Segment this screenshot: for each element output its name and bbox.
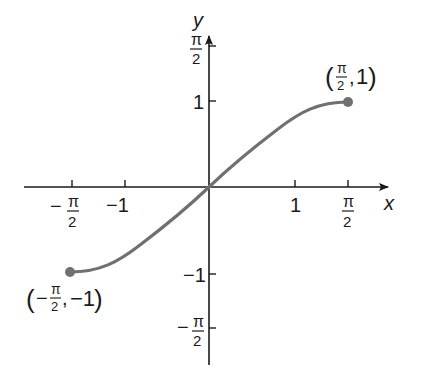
annot-left-neg-one: −1 — [70, 286, 95, 311]
annot-left-pi: π — [51, 281, 61, 297]
x-axis-label: x — [383, 192, 395, 214]
x-label-pi-half-pi: π — [343, 193, 354, 210]
annot-right-comma: , — [349, 66, 355, 88]
y-label-neg-pi-half-minus: − — [177, 316, 189, 338]
endpoint-left — [65, 267, 75, 277]
annot-left-lparen: ( — [26, 284, 35, 314]
y-tick-labels: π 2 1 −1 − π 2 — [177, 31, 206, 349]
x-tick-labels: − π 2 −1 1 π 2 — [50, 193, 354, 230]
y-label-pi-half-two: 2 — [192, 50, 200, 67]
annot-right-rparen: ) — [368, 62, 377, 92]
x-label-neg-1: −1 — [106, 194, 129, 216]
x-label-neg-pi-half-two: 2 — [68, 213, 76, 230]
annot-right-pi: π — [337, 60, 347, 76]
annotation-right-endpoint: ( π 2 , 1 ) — [325, 60, 377, 93]
annotation-left-endpoint: ( − π 2 , −1 ) — [26, 281, 103, 314]
endpoint-right — [343, 97, 353, 107]
x-label-neg-pi-half-minus: − — [50, 195, 62, 217]
y-label-neg-pi-half-pi: π — [193, 313, 204, 330]
annot-right-lparen: ( — [325, 62, 334, 92]
annot-left-comma: , — [62, 287, 68, 309]
x-label-neg-pi-half-pi: π — [68, 193, 79, 210]
y-label-neg-1: −1 — [183, 264, 206, 286]
y-label-neg-pi-half-two: 2 — [193, 332, 201, 349]
annot-left-rparen: ) — [94, 284, 103, 314]
y-axis-label: y — [191, 9, 204, 31]
x-label-1: 1 — [290, 194, 301, 216]
annot-left-two: 2 — [51, 299, 58, 314]
annot-right-one: 1 — [356, 64, 368, 89]
x-label-pi-half-two: 2 — [343, 213, 351, 230]
chart-canvas: x y − π 2 −1 1 π 2 π 2 1 −1 − π 2 ( π — [0, 0, 421, 386]
annot-left-minus: − — [36, 287, 48, 309]
y-label-1: 1 — [193, 91, 204, 113]
y-label-pi-half-pi: π — [191, 31, 202, 48]
annot-right-two: 2 — [337, 78, 344, 93]
